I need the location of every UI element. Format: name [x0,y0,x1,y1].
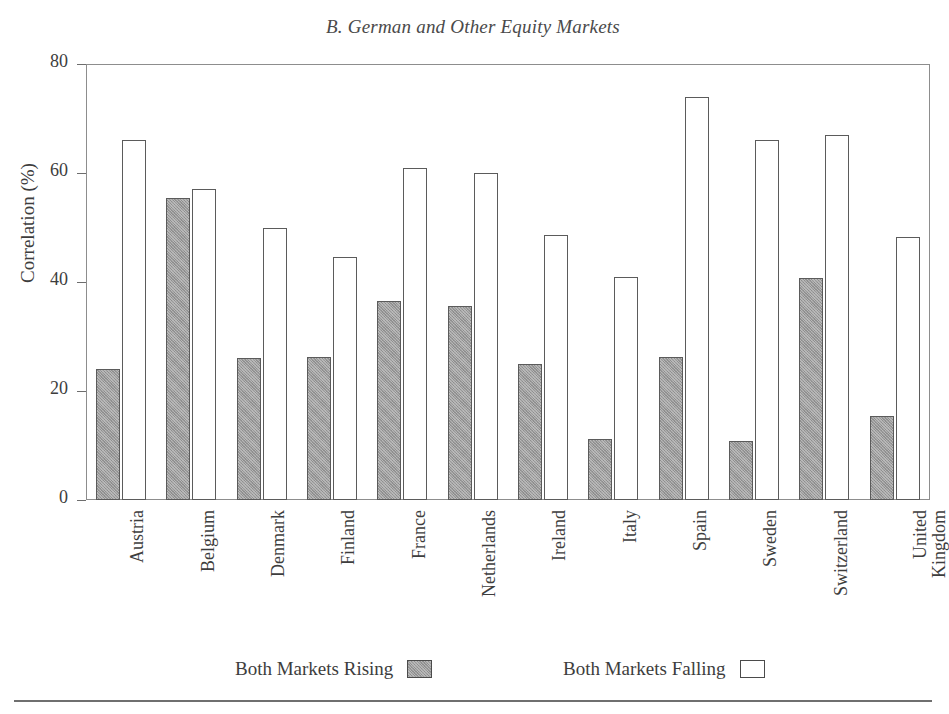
x-label-france: France [410,510,429,650]
bar-rising [870,416,894,500]
bar-group [649,64,719,500]
y-tick-label: 80 [50,51,68,72]
bar-rising [377,301,401,500]
bar-group [508,64,578,500]
x-label-spain: Spain [691,510,710,650]
x-label-line: Belgium [198,510,218,572]
y-tick-mark [77,173,86,174]
x-label-line: Ireland [549,510,569,561]
bar-group [860,64,930,500]
chart-legend: Both Markets Rising Both Markets Falling [0,658,946,692]
bar-group [86,64,156,500]
y-tick-mark [77,282,86,283]
y-tick-label: 60 [50,160,68,181]
bar-rising [588,439,612,500]
y-tick-mark [77,64,86,65]
x-label-switzerland: Switzerland [832,510,851,650]
x-label-line: Austria [127,510,147,563]
bar-group [438,64,508,500]
x-label-ireland: Ireland [550,510,569,650]
x-label-united-kingdom: UnitedKingdom [911,510,949,650]
x-label-denmark: Denmark [269,510,288,650]
y-axis-title: Correlation (%) [17,103,39,343]
y-tick-label: 20 [50,378,68,399]
chart-title: B. German and Other Equity Markets [0,16,946,38]
bar-rising [448,306,472,500]
bar-falling [122,140,146,500]
bar-group [156,64,226,500]
bar-group [578,64,648,500]
bar-rising [518,364,542,500]
x-label-italy: Italy [621,510,640,650]
y-tick-label: 0 [59,487,68,508]
y-tick-label: 40 [50,269,68,290]
x-axis-category-labels: AustriaBelgiumDenmarkFinlandFranceNether… [86,500,930,640]
x-label-line: Denmark [268,510,288,577]
bar-falling [896,237,920,500]
bar-falling [333,257,357,500]
y-tick-mark [77,500,86,501]
x-label-line: Sweden [760,510,780,567]
legend-label-rising: Both Markets Rising [235,658,393,680]
bar-falling [263,228,287,501]
x-label-line: France [409,510,429,559]
bar-group [789,64,859,500]
x-label-line: Kingdom [930,510,949,650]
x-label-line: Spain [690,510,710,551]
x-label-line: Finland [338,510,358,565]
bar-rising [659,357,683,500]
bar-group [367,64,437,500]
x-label-austria: Austria [128,510,147,650]
bar-falling [192,189,216,500]
bar-falling [755,140,779,500]
bar-falling [544,235,568,500]
bar-falling [474,173,498,500]
bar-rising [96,369,120,500]
legend-swatch-falling [740,660,765,678]
bottom-rule-divider [14,700,932,702]
legend-item-both-markets-falling: Both Markets Falling [563,658,765,680]
x-label-line: Italy [620,510,640,543]
legend-label-falling: Both Markets Falling [563,658,726,680]
bar-falling [403,168,427,500]
legend-swatch-rising [407,660,432,678]
bar-falling [685,97,709,500]
bar-rising [237,358,261,500]
bar-falling [825,135,849,500]
bar-rising [729,441,753,500]
bar-group [227,64,297,500]
bar-rising [799,278,823,500]
bar-group [297,64,367,500]
bar-falling [614,277,638,500]
bars-layer [86,64,930,500]
legend-item-both-markets-rising: Both Markets Rising [235,658,432,680]
bar-group [719,64,789,500]
x-label-sweden: Sweden [761,510,780,650]
x-label-line: United [910,510,930,559]
x-label-belgium: Belgium [199,510,218,650]
bar-rising [166,198,190,500]
bar-rising [307,357,331,500]
x-label-netherlands: Netherlands [480,510,499,650]
y-tick-mark [77,391,86,392]
x-label-line: Netherlands [479,510,499,597]
x-label-finland: Finland [339,510,358,650]
x-label-line: Switzerland [831,510,851,596]
